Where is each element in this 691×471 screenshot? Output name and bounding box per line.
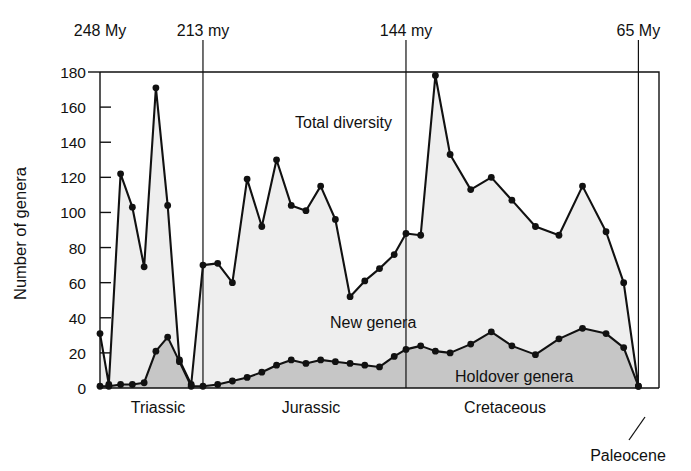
period-label-jurassic: Jurassic xyxy=(282,399,341,416)
data-point xyxy=(417,342,424,349)
data-point xyxy=(417,232,424,239)
data-point xyxy=(488,328,495,335)
data-point xyxy=(288,357,295,364)
data-point xyxy=(508,342,515,349)
data-point xyxy=(129,381,136,388)
data-point xyxy=(97,383,104,390)
period-label-triassic: Triassic xyxy=(131,399,186,416)
diversity-chart: 020406080100120140160180 248 My213 my144… xyxy=(0,0,691,471)
data-point xyxy=(432,72,439,79)
data-point xyxy=(200,383,207,390)
top-age-label: 144 my xyxy=(380,22,432,39)
data-point xyxy=(635,383,642,390)
data-point xyxy=(403,230,410,237)
data-point xyxy=(288,202,295,209)
data-point xyxy=(200,262,207,269)
data-point xyxy=(556,232,563,239)
data-point xyxy=(303,207,310,214)
data-point xyxy=(603,330,610,337)
data-point xyxy=(579,183,586,190)
data-point xyxy=(229,279,236,286)
top-age-labels: 248 My213 my144 my65 My xyxy=(74,22,660,39)
data-point xyxy=(129,204,136,211)
top-age-label: 65 My xyxy=(617,22,661,39)
period-label-cretaceous: Cretaceous xyxy=(464,399,546,416)
data-point xyxy=(347,360,354,367)
data-point xyxy=(447,349,454,356)
data-point xyxy=(117,170,124,177)
data-point xyxy=(214,381,221,388)
y-tick-label: 20 xyxy=(69,345,87,362)
period-label-paleocene: Paleocene xyxy=(590,447,666,464)
y-tick-label: 180 xyxy=(60,64,86,81)
y-tick-label: 0 xyxy=(77,380,86,397)
data-point xyxy=(347,293,354,300)
y-tick-label: 160 xyxy=(60,99,86,116)
data-point xyxy=(376,265,383,272)
data-point xyxy=(317,183,324,190)
data-point xyxy=(105,383,112,390)
data-point xyxy=(258,223,265,230)
data-point xyxy=(214,260,221,267)
data-point xyxy=(229,378,236,385)
data-point xyxy=(556,335,563,342)
data-point xyxy=(153,348,160,355)
data-point xyxy=(273,156,280,163)
data-point xyxy=(447,151,454,158)
data-point xyxy=(391,251,398,258)
y-tick-label: 140 xyxy=(60,134,86,151)
top-age-label: 213 my xyxy=(177,22,229,39)
data-point xyxy=(361,278,368,285)
data-point xyxy=(332,216,339,223)
data-point xyxy=(164,202,171,209)
data-point xyxy=(303,360,310,367)
y-tick-label: 100 xyxy=(60,204,86,221)
data-point xyxy=(97,330,104,337)
data-point xyxy=(361,362,368,369)
data-point xyxy=(176,358,183,365)
data-point xyxy=(273,362,280,369)
y-tick-label: 80 xyxy=(69,240,87,257)
data-point xyxy=(508,197,515,204)
data-point xyxy=(164,334,171,341)
y-tick-label: 60 xyxy=(69,275,87,292)
data-point xyxy=(579,325,586,332)
top-age-label: 248 My xyxy=(74,22,126,39)
data-point xyxy=(620,279,627,286)
y-tick-label: 40 xyxy=(69,310,87,327)
data-point xyxy=(488,174,495,181)
data-point xyxy=(467,186,474,193)
y-axis-title: Number of genera xyxy=(11,166,29,300)
data-point xyxy=(244,374,251,381)
new-genera-label: New genera xyxy=(330,314,416,331)
y-tick-label: 120 xyxy=(60,169,86,186)
data-point xyxy=(244,176,251,183)
data-point xyxy=(603,228,610,235)
data-point xyxy=(391,353,398,360)
data-point xyxy=(141,379,148,386)
data-point xyxy=(153,84,160,91)
data-point xyxy=(532,351,539,358)
paleocene-pointer-line xyxy=(629,417,645,440)
data-point xyxy=(258,369,265,376)
data-point xyxy=(141,263,148,270)
data-point xyxy=(403,346,410,353)
data-point xyxy=(117,381,124,388)
data-point xyxy=(467,341,474,348)
data-point xyxy=(332,358,339,365)
data-point xyxy=(620,344,627,351)
data-point xyxy=(188,383,195,390)
data-point xyxy=(376,364,383,371)
data-point xyxy=(432,348,439,355)
dinosaur-diversity-figure: 020406080100120140160180 248 My213 my144… xyxy=(0,0,691,471)
data-point xyxy=(317,357,324,364)
total-diversity-label: Total diversity xyxy=(295,114,392,131)
holdover-genera-label: Holdover genera xyxy=(455,368,573,385)
data-point xyxy=(532,223,539,230)
